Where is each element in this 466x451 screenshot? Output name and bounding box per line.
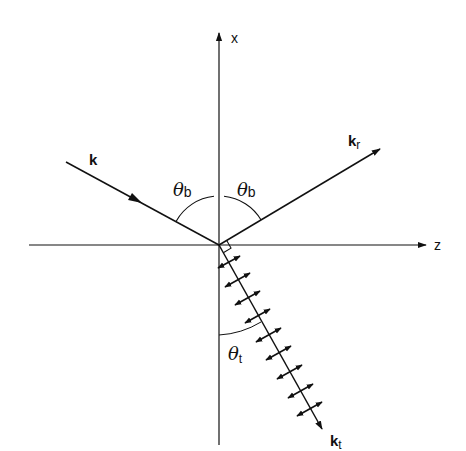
polarization-double-arrow-icon <box>277 365 302 379</box>
polarization-double-arrow-icon <box>218 256 240 268</box>
incident-vector-label: k <box>89 151 98 168</box>
incidence-angle-arc <box>176 196 214 221</box>
transmission-angle-label: θt <box>228 343 243 366</box>
polarization-double-arrow-icon <box>245 309 270 323</box>
incident-direction-arrow-icon <box>128 193 142 203</box>
polarization-double-arrow-icon <box>225 273 250 287</box>
incident-wave-vector <box>66 162 219 245</box>
brewster-angle-diagram: x z k kr kt θb θb θt <box>0 0 466 451</box>
polarization-double-arrow-icon <box>288 384 313 398</box>
reflection-angle-label: θb <box>237 179 256 200</box>
polarization-double-arrow-icon <box>266 346 291 360</box>
polarization-double-arrow-icon <box>297 402 322 416</box>
reflected-vector-label: kr <box>348 132 360 152</box>
polarization-double-arrow-icon <box>235 291 260 305</box>
incidence-angle-label: θb <box>173 179 192 200</box>
transmission-angle-arc <box>219 322 261 335</box>
x-axis-label: x <box>231 30 238 46</box>
polarization-double-arrow-icon <box>256 328 281 342</box>
transmitted-vector-label: kt <box>330 432 342 451</box>
z-axis-label: z <box>434 237 441 253</box>
transmitted-wave-vector <box>219 245 322 429</box>
